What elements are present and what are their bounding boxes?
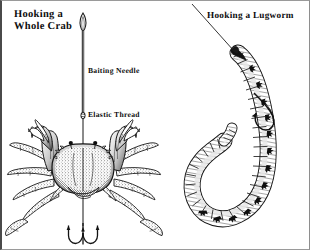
lugworm [186,47,274,224]
treble-hook [67,223,100,245]
callout-baiting-needle: Baiting Needle [88,67,140,76]
crab [6,120,163,236]
baiting-needle [80,13,86,113]
panel-title-crab: Hooking a Whole Crab [14,9,72,34]
panel-title-lugworm: Hooking a Lugworm [207,10,294,21]
crab-left-paddle [6,219,28,236]
crab-right-paddle [140,219,162,236]
callout-elastic-thread: Elastic Thread [88,111,140,120]
figure-plate: Hooking a Whole Crab Hooking a Lugworm B… [0,0,310,250]
illustration-canvas [2,1,310,250]
